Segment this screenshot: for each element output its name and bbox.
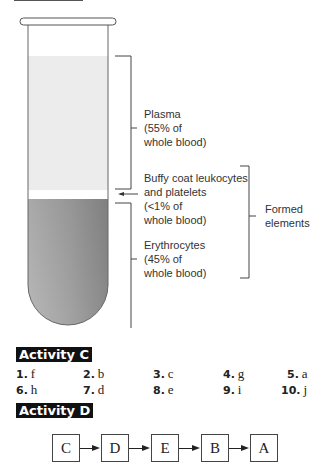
buffy-name-2: and platelets — [144, 185, 248, 199]
test-tube-diagram — [0, 0, 326, 340]
arrowhead-icon — [142, 445, 150, 451]
answer-2: 2.b — [83, 366, 104, 383]
answer-number: 10. — [281, 384, 301, 397]
answer-6: 6.h — [16, 382, 37, 399]
arrowhead-icon — [92, 445, 100, 451]
answer-number: 2. — [83, 368, 95, 381]
answer-number: 5. — [287, 368, 299, 381]
answer-letter: a — [302, 366, 308, 381]
erythrocytes-label: Erythrocytes (45% of whole blood) — [144, 238, 206, 280]
answer-number: 1. — [16, 368, 28, 381]
answer-10: 10.j — [281, 382, 307, 399]
answer-8: 8.e — [153, 382, 174, 399]
buffy-coat-layer — [28, 190, 108, 199]
erythrocytes-detail-2: whole blood) — [144, 266, 206, 280]
sequence-arrow — [129, 448, 143, 449]
activity-c-heading: Activity C — [16, 347, 92, 362]
answer-7: 7.d — [83, 382, 104, 399]
answer-number: 3. — [153, 368, 165, 381]
answer-letter: g — [238, 366, 245, 381]
answer-number: 8. — [153, 384, 165, 397]
answer-letter: j — [304, 382, 308, 397]
formed-line-2: elements — [265, 216, 310, 230]
sequence-box-4: B — [201, 434, 229, 462]
plasma-name: Plasma — [144, 107, 206, 121]
formed-elements-label: Formed elements — [265, 202, 310, 230]
answer-letter: h — [31, 382, 38, 397]
plasma-detail-1: (55% of — [144, 121, 206, 135]
answer-4: 4.g — [223, 366, 244, 383]
answer-1: 1.f — [16, 366, 35, 383]
sequence-box-3: E — [151, 434, 179, 462]
answer-9: 9.i — [223, 382, 241, 399]
answer-letter: c — [168, 366, 174, 381]
answer-5: 5.a — [287, 366, 308, 383]
answer-letter: f — [31, 366, 35, 381]
formed-line-1: Formed — [265, 202, 310, 216]
plasma-label: Plasma (55% of whole blood) — [144, 107, 206, 149]
activity-d-heading: Activity D — [16, 403, 93, 418]
arrowhead-icon — [192, 445, 200, 451]
sequence-box-5: A — [250, 434, 278, 462]
erythrocytes-name: Erythrocytes — [144, 238, 206, 252]
answer-number: 7. — [83, 384, 95, 397]
plasma-detail-2: whole blood) — [144, 135, 206, 149]
buffy-coat-label: Buffy coat leukocytes and platelets (<1%… — [144, 171, 248, 227]
answer-number: 9. — [223, 384, 235, 397]
sequence-box-1: C — [52, 434, 80, 462]
answer-letter: d — [98, 382, 105, 397]
buffy-detail-1: (<1% of — [144, 199, 248, 213]
answer-letter: i — [238, 382, 242, 397]
answer-letter: b — [98, 366, 105, 381]
plasma-layer — [28, 56, 108, 190]
answer-3: 3.c — [153, 366, 174, 383]
erythrocytes-detail-1: (45% of — [144, 252, 206, 266]
answer-number: 6. — [16, 384, 28, 397]
sequence-box-2: D — [101, 434, 129, 462]
buffy-name-1: Buffy coat leukocytes — [144, 171, 248, 185]
sequence-arrow — [179, 448, 193, 449]
answer-number: 4. — [223, 368, 235, 381]
answer-letter: e — [168, 382, 174, 397]
buffy-detail-2: whole blood) — [144, 213, 248, 227]
arrowhead-icon — [241, 445, 249, 451]
